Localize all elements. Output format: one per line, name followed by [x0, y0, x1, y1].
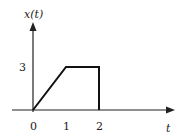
y-axis-arrow-icon	[30, 22, 37, 31]
signal-line	[33, 67, 99, 110]
signal-plot: x(t) 3 0 1 2 t	[0, 0, 180, 140]
x-tick-1: 1	[63, 120, 70, 133]
x-axis-arrow-icon	[166, 107, 175, 114]
y-tick-3: 3	[19, 61, 26, 74]
x-axis-label: t	[166, 122, 171, 135]
x-tick-0: 0	[30, 120, 37, 133]
x-tick-2: 2	[96, 120, 103, 133]
y-axis-label: x(t)	[24, 8, 43, 21]
